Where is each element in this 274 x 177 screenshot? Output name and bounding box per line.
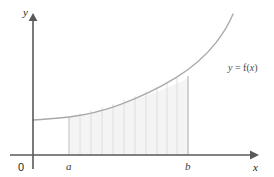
- x-axis-label: x: [252, 161, 258, 173]
- shaded-area-under-curve: [69, 79, 188, 155]
- function-label-equals: =: [232, 62, 243, 73]
- upper-bound-label-b: b: [185, 160, 191, 172]
- origin-label: 0: [18, 161, 24, 173]
- function-equation-label: y = f(x): [227, 62, 258, 74]
- y-axis-arrowhead-icon: [29, 13, 38, 21]
- function-label-paren: ): [254, 62, 257, 74]
- lower-bound-label-a: a: [66, 160, 72, 172]
- figure-canvas: y x 0 a b y = f(x): [0, 0, 274, 177]
- x-axis-arrowhead-icon: [250, 151, 259, 160]
- area-under-curve-diagram: y x 0 a b y = f(x): [0, 0, 274, 177]
- y-axis-label: y: [22, 6, 28, 18]
